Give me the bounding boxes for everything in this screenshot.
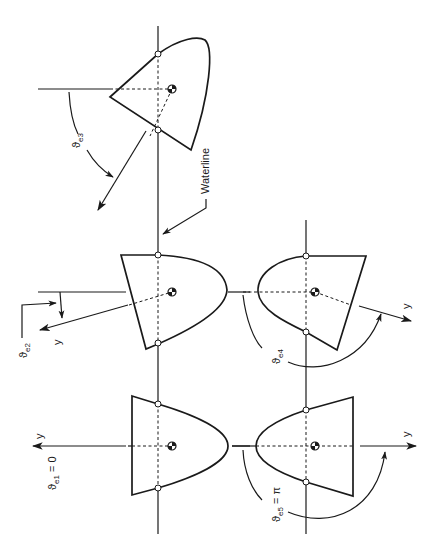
waterline-label: Waterline	[199, 148, 211, 194]
theta-e4-label: ϑe4	[270, 349, 285, 364]
hull-roll-diagram: ϑe3 Waterline ϑe2 y	[0, 0, 434, 552]
center-of-gravity-icon	[168, 442, 176, 450]
hull-orientation-e5: y ϑe5 = π	[232, 397, 416, 522]
y-axis-label: y	[51, 339, 63, 345]
waterline-intersection-point	[303, 253, 309, 259]
center-of-gravity-icon	[168, 85, 176, 93]
hull-orientation-e1: y ϑe1 = 0	[33, 396, 250, 495]
y-axis-label: y	[400, 431, 412, 437]
y-axis-arrow	[98, 131, 146, 210]
theta-e2-label: ϑe2	[17, 343, 32, 358]
y-axis-label: y	[400, 303, 412, 309]
theta-e1-label: ϑe1 = 0	[46, 456, 61, 490]
hull-orientation-e4: y ϑe4	[243, 253, 412, 367]
waterline-intersection-point	[303, 329, 309, 335]
angle-arc-e4	[243, 295, 262, 348]
waterline-intersection-point	[155, 485, 161, 491]
angle-arc-e5	[243, 450, 262, 500]
center-of-gravity-icon	[311, 288, 319, 296]
hull-orientation-e2: ϑe2 y	[17, 252, 250, 358]
waterline-intersection-point	[155, 340, 161, 346]
waterline-intersection-point	[155, 401, 161, 407]
theta-e5-label: ϑe5 = π	[270, 487, 285, 522]
angle-indicator-e2	[60, 292, 62, 318]
theta-e3-label: ϑe3	[70, 133, 85, 148]
waterline-intersection-point	[155, 252, 161, 258]
y-axis-label: y	[33, 433, 45, 439]
waterline-intersection-point	[303, 479, 309, 485]
waterline-intersection-point	[303, 407, 309, 413]
y-axis-arrow	[40, 305, 128, 330]
angle-arc-e3	[69, 92, 78, 134]
waterline-intersection-point	[155, 51, 161, 57]
center-of-gravity-icon	[168, 288, 176, 296]
waterline-callout: Waterline	[163, 148, 211, 234]
center-of-gravity-icon	[311, 442, 319, 450]
hull-orientation-e3: ϑe3	[38, 38, 210, 210]
waterline-intersection-point	[155, 127, 161, 133]
